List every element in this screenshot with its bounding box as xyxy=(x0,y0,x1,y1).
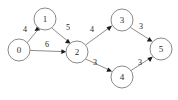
edge-2-to-3-weight: 4 xyxy=(90,25,94,34)
edge-3-to-5-arrowhead xyxy=(147,37,153,42)
node-0: 0 xyxy=(8,39,30,61)
edge-0-to-2-line xyxy=(30,50,63,51)
node-2: 2 xyxy=(66,41,88,63)
edge-0-to-2-weight: 6 xyxy=(45,40,49,49)
node-1-label: 1 xyxy=(43,14,48,24)
edge-0-to-1-line xyxy=(27,29,39,43)
edge-3-to-5: 3 xyxy=(130,22,152,42)
edge-2-to-3-arrowhead xyxy=(107,26,113,31)
edge-4-to-5-weight: 3 xyxy=(138,58,142,67)
edge-2-to-3: 4 xyxy=(86,25,113,46)
graph-canvas: 4 6 5 4 3 xyxy=(0,0,178,100)
node-5-label: 5 xyxy=(159,44,164,54)
edge-2-to-4: 3 xyxy=(86,58,113,72)
node-5: 5 xyxy=(150,38,172,60)
node-3: 3 xyxy=(111,9,133,31)
edge-4-to-5-arrowhead xyxy=(147,57,153,62)
node-1: 1 xyxy=(34,8,56,30)
graph-diagram: 4 6 5 4 3 xyxy=(0,0,178,100)
edge-3-to-5-weight: 3 xyxy=(139,22,143,31)
edge-4-to-5: 3 xyxy=(131,57,153,71)
edge-0-to-2: 6 xyxy=(30,40,66,55)
edge-2-to-4-line xyxy=(86,59,110,70)
edge-0-to-1-weight: 4 xyxy=(23,25,27,34)
edge-1-to-2-weight: 5 xyxy=(66,23,70,32)
edge-2-to-4-weight: 3 xyxy=(93,58,97,67)
node-4: 4 xyxy=(111,66,133,88)
node-3-label: 3 xyxy=(120,15,125,25)
edge-1-to-2: 5 xyxy=(52,23,71,44)
node-4-label: 4 xyxy=(120,72,125,82)
edge-0-to-2-arrowhead xyxy=(61,49,66,54)
node-2-label: 2 xyxy=(75,47,80,57)
nodes-group: 0 1 2 3 4 5 xyxy=(8,8,172,88)
node-0-label: 0 xyxy=(17,45,22,55)
